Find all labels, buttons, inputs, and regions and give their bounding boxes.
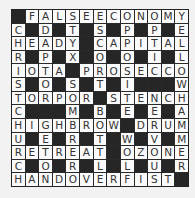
letter-cell[interactable]: M [175, 133, 188, 146]
letter-cell[interactable]: I [12, 64, 25, 77]
letter-cell[interactable]: O [121, 146, 134, 159]
letter-cell[interactable]: E [94, 10, 107, 23]
letter-cell[interactable]: O [39, 78, 52, 91]
letter-cell[interactable]: L [121, 160, 134, 173]
letter-cell[interactable]: A [39, 37, 52, 50]
letter-cell[interactable]: C [107, 10, 120, 23]
letter-cell[interactable]: E [80, 10, 93, 23]
letter-cell[interactable]: E [135, 64, 148, 77]
letter-cell[interactable]: P [39, 51, 52, 64]
letter-cell[interactable]: E [175, 24, 188, 37]
letter-cell[interactable]: R [66, 160, 79, 173]
letter-cell[interactable]: S [94, 24, 107, 37]
letter-cell[interactable]: D [53, 37, 66, 50]
letter-cell[interactable]: T [66, 24, 79, 37]
letter-cell[interactable]: S [121, 64, 134, 77]
letter-cell[interactable]: H [12, 173, 25, 186]
letter-cell[interactable]: E [94, 173, 107, 186]
letter-cell[interactable]: T [162, 173, 175, 186]
letter-cell[interactable]: C [148, 64, 161, 77]
letter-cell[interactable]: X [66, 51, 79, 64]
letter-cell[interactable]: C [12, 24, 25, 37]
letter-cell[interactable]: O [175, 64, 188, 77]
letter-cell[interactable]: R [53, 146, 66, 159]
letter-cell[interactable]: C [162, 64, 175, 77]
letter-cell[interactable]: N [162, 146, 175, 159]
letter-cell[interactable]: T [94, 146, 107, 159]
letter-cell[interactable]: S [66, 78, 79, 91]
letter-cell[interactable]: L [94, 160, 107, 173]
letter-cell[interactable]: O [26, 92, 39, 105]
letter-cell[interactable]: H [12, 37, 25, 50]
letter-cell[interactable]: V [148, 133, 161, 146]
letter-cell[interactable]: S [107, 92, 120, 105]
letter-cell[interactable]: I [26, 119, 39, 132]
letter-cell[interactable]: T [12, 92, 25, 105]
letter-cell[interactable]: P [148, 24, 161, 37]
letter-cell[interactable]: A [39, 10, 52, 23]
letter-cell[interactable]: A [107, 37, 120, 50]
letter-cell[interactable]: O [148, 10, 161, 23]
letter-cell[interactable]: R [12, 51, 25, 64]
letter-cell[interactable]: A [53, 64, 66, 77]
letter-cell[interactable]: E [175, 146, 188, 159]
letter-cell[interactable]: O [121, 51, 134, 64]
letter-cell[interactable]: S [148, 173, 161, 186]
letter-cell[interactable]: W [175, 78, 188, 91]
letter-cell[interactable]: U [148, 160, 161, 173]
letter-cell[interactable]: G [39, 119, 52, 132]
letter-cell[interactable]: A [175, 105, 188, 118]
letter-cell[interactable]: W [107, 119, 120, 132]
letter-cell[interactable]: T [148, 37, 161, 50]
letter-cell[interactable]: E [121, 105, 134, 118]
letter-cell[interactable]: P [53, 92, 66, 105]
letter-cell[interactable]: C [12, 160, 25, 173]
letter-cell[interactable]: T [94, 133, 107, 146]
letter-cell[interactable]: A [80, 146, 93, 159]
letter-cell[interactable]: H [53, 119, 66, 132]
letter-cell[interactable]: R [175, 160, 188, 173]
letter-cell[interactable]: H [175, 92, 188, 105]
letter-cell[interactable]: O [94, 51, 107, 64]
letter-cell[interactable]: L [53, 10, 66, 23]
letter-cell[interactable]: I [135, 37, 148, 50]
letter-cell[interactable]: I [121, 78, 134, 91]
letter-cell[interactable]: C [162, 92, 175, 105]
letter-cell[interactable]: V [80, 173, 93, 186]
letter-cell[interactable]: T [39, 64, 52, 77]
letter-cell[interactable]: O [94, 119, 107, 132]
letter-cell[interactable]: S [12, 78, 25, 91]
letter-cell[interactable]: U [12, 133, 25, 146]
letter-cell[interactable]: N [148, 92, 161, 105]
letter-cell[interactable]: R [80, 92, 93, 105]
letter-cell[interactable]: D [135, 119, 148, 132]
letter-cell[interactable]: S [66, 10, 79, 23]
letter-cell[interactable]: P [121, 37, 134, 50]
letter-cell[interactable]: P [80, 64, 93, 77]
letter-cell[interactable]: O [66, 173, 79, 186]
letter-cell[interactable]: R [12, 146, 25, 159]
letter-cell[interactable]: E [148, 105, 161, 118]
letter-cell[interactable]: R [39, 92, 52, 105]
letter-cell[interactable]: F [121, 173, 134, 186]
letter-cell[interactable]: N [135, 10, 148, 23]
letter-cell[interactable]: O [26, 64, 39, 77]
letter-cell[interactable]: A [26, 173, 39, 186]
letter-cell[interactable]: A [162, 37, 175, 50]
letter-cell[interactable]: B [94, 105, 107, 118]
letter-cell[interactable]: O [121, 10, 134, 23]
letter-cell[interactable]: M [66, 105, 79, 118]
letter-cell[interactable]: T [94, 78, 107, 91]
letter-cell[interactable]: I [148, 51, 161, 64]
letter-cell[interactable]: M [162, 10, 175, 23]
letter-cell[interactable]: T [39, 146, 52, 159]
letter-cell[interactable]: O [148, 146, 161, 159]
letter-cell[interactable]: E [135, 92, 148, 105]
letter-cell[interactable]: E [26, 146, 39, 159]
letter-cell[interactable]: O [39, 160, 52, 173]
letter-cell[interactable]: E [39, 133, 52, 146]
letter-cell[interactable]: U [162, 119, 175, 132]
letter-cell[interactable]: H [12, 119, 25, 132]
letter-cell[interactable]: I [135, 173, 148, 186]
letter-cell[interactable]: P [121, 24, 134, 37]
